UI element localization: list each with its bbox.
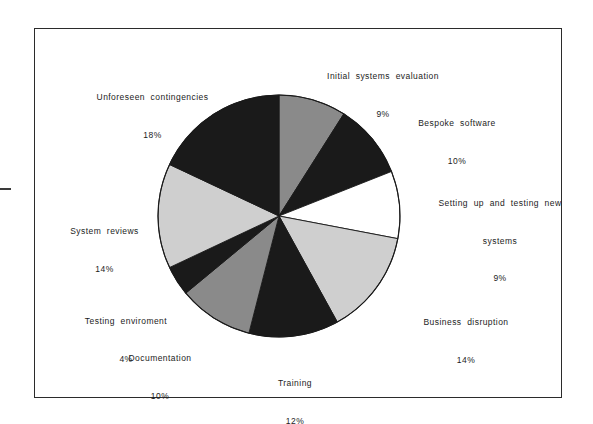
pie-label-unforeseen-contingencies: Unforeseen contingencies 18% [70,66,235,166]
pie-label-text-line2: systems [424,235,576,248]
pie-label-text: Business disruption [396,316,536,329]
pie-label-text: System reviews [42,225,167,238]
pie-label-training: Training 12% [240,352,350,424]
pie-label-system-reviews: System reviews 14% [42,200,167,300]
pie-label-text: Initial systems evaluation [308,70,458,83]
pie-label-percent: 10% [100,390,220,403]
pie-label-business-disruption: Business disruption 14% [396,291,536,391]
pie-label-text: Training [240,377,350,390]
pie-label-text-line1: Setting up and testing new [424,197,576,210]
pie-chart: Initial systems evaluation 9% Bespoke so… [0,0,593,424]
pie-label-testing-enviroment: Testing enviroment 4% [56,290,196,390]
pie-label-percent: 12% [240,415,350,424]
pie-label-percent: 4% [56,353,196,366]
pie-label-percent: 18% [70,129,235,142]
pie-label-setting-up-and-testing-new-systems: Setting up and testing new systems 9% [424,172,576,310]
pie-label-text: Testing enviroment [56,315,196,328]
pie-label-text: Bespoke software [392,117,522,130]
pie-label-percent: 14% [42,263,167,276]
page-canvas: Initial systems evaluation 9% Bespoke so… [0,0,593,424]
pie-label-text: Unforeseen contingencies [70,91,235,104]
pie-label-percent: 9% [424,272,576,285]
pie-label-percent: 10% [392,155,522,168]
pie-label-percent: 14% [396,354,536,367]
